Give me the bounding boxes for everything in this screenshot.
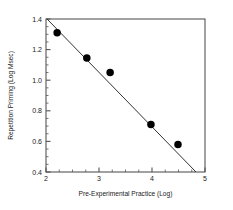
y-tick-label: 0.8 [32,107,42,114]
x-axis-title: Pre-Experimental Practice (Log) [79,190,173,198]
x-tick-label: 2 [44,175,48,182]
y-tick-label: 0.4 [32,169,42,176]
data-point [53,29,61,37]
y-tick-label: 1.2 [32,46,42,53]
plot-background [0,0,233,210]
data-point [174,141,182,149]
y-tick-label: 1.0 [32,77,42,84]
data-point [83,54,91,62]
chart-figure: 2345 0.40.60.81.01.21.4 Pre-Experimental… [0,0,233,210]
x-tick-label: 4 [150,175,154,182]
data-point [147,121,155,129]
scatter-plot: 2345 0.40.60.81.01.21.4 Pre-Experimental… [0,0,233,210]
y-tick-label: 1.4 [32,16,42,23]
x-tick-label: 5 [203,175,207,182]
y-tick-label: 0.6 [32,138,42,145]
x-tick-label: 3 [97,175,101,182]
data-point [106,69,114,77]
y-axis-title: Repetition Priming (Log Msec) [7,51,15,140]
